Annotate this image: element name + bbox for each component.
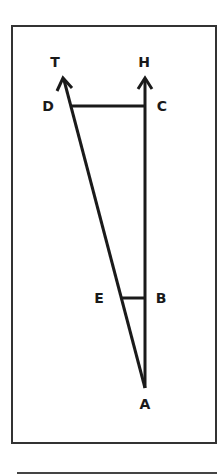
ray-at — [64, 80, 145, 388]
triangle-diagram: T H D C E B A — [0, 0, 219, 475]
label-a: A — [140, 396, 151, 412]
label-d: D — [42, 98, 54, 114]
label-t: T — [50, 54, 60, 70]
bottom-divider — [17, 472, 217, 474]
label-e: E — [94, 290, 104, 306]
label-c: C — [157, 98, 167, 114]
label-h: H — [138, 54, 150, 70]
label-b: B — [156, 290, 167, 306]
